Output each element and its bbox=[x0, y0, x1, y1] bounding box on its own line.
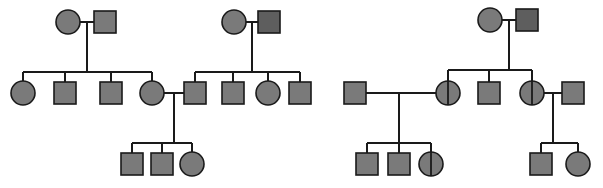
female-circle-symbol[interactable] bbox=[222, 10, 246, 34]
female-circle-symbol[interactable] bbox=[140, 81, 164, 105]
female-circle-symbol[interactable] bbox=[566, 152, 590, 176]
individual-R-III-5[interactable] bbox=[566, 152, 590, 176]
individual-R-II-2[interactable] bbox=[478, 82, 500, 104]
male-square-symbol[interactable] bbox=[388, 153, 410, 175]
female-circle-symbol[interactable] bbox=[56, 10, 80, 34]
individual-M-II-1[interactable] bbox=[184, 82, 206, 104]
male-square-symbol[interactable] bbox=[54, 82, 76, 104]
individual-M-I-1[interactable] bbox=[222, 10, 246, 34]
individual-L-II-1[interactable] bbox=[11, 81, 35, 105]
pedigree-diagram bbox=[0, 0, 603, 188]
male-square-symbol[interactable] bbox=[289, 82, 311, 104]
individual-M-I-2[interactable] bbox=[258, 11, 280, 33]
male-square-symbol[interactable] bbox=[222, 82, 244, 104]
pedigree-chart-canvas bbox=[0, 0, 603, 188]
individual-R-II-3[interactable] bbox=[520, 81, 544, 105]
individual-R-II-1[interactable] bbox=[436, 81, 460, 105]
individual-R-I-1[interactable] bbox=[478, 8, 502, 32]
individual-M-II-4[interactable] bbox=[289, 82, 311, 104]
individual-R-III-4[interactable] bbox=[530, 153, 552, 175]
male-square-symbol[interactable] bbox=[94, 11, 116, 33]
individual-L-III-1[interactable] bbox=[121, 153, 143, 175]
male-square-symbol[interactable] bbox=[100, 82, 122, 104]
individual-M-II-2[interactable] bbox=[222, 82, 244, 104]
individual-M-II-3[interactable] bbox=[256, 81, 280, 105]
female-circle-symbol[interactable] bbox=[478, 8, 502, 32]
individual-L-I-2[interactable] bbox=[94, 11, 116, 33]
female-circle-symbol[interactable] bbox=[11, 81, 35, 105]
male-square-symbol[interactable] bbox=[562, 82, 584, 104]
individual-L-III-3[interactable] bbox=[180, 152, 204, 176]
individual-L-III-2[interactable] bbox=[151, 153, 173, 175]
male-square-symbol[interactable] bbox=[356, 153, 378, 175]
male-square-symbol[interactable] bbox=[530, 153, 552, 175]
male-square-symbol[interactable] bbox=[478, 82, 500, 104]
female-circle-symbol[interactable] bbox=[180, 152, 204, 176]
individual-L-II-4[interactable] bbox=[140, 81, 164, 105]
individual-L-II-3[interactable] bbox=[100, 82, 122, 104]
individual-L-II-2[interactable] bbox=[54, 82, 76, 104]
male-square-symbol[interactable] bbox=[258, 11, 280, 33]
individual-R-I-2[interactable] bbox=[516, 9, 538, 31]
individual-L-I-1[interactable] bbox=[56, 10, 80, 34]
male-square-symbol[interactable] bbox=[184, 82, 206, 104]
individual-R-III-3[interactable] bbox=[419, 152, 443, 176]
individual-R-II-4[interactable] bbox=[562, 82, 584, 104]
male-square-symbol[interactable] bbox=[516, 9, 538, 31]
male-square-symbol[interactable] bbox=[151, 153, 173, 175]
individual-R-III-1[interactable] bbox=[356, 153, 378, 175]
male-square-symbol[interactable] bbox=[121, 153, 143, 175]
male-square-symbol[interactable] bbox=[344, 82, 366, 104]
female-circle-symbol[interactable] bbox=[256, 81, 280, 105]
individual-R-II-0[interactable] bbox=[344, 82, 366, 104]
individual-R-III-2[interactable] bbox=[388, 153, 410, 175]
